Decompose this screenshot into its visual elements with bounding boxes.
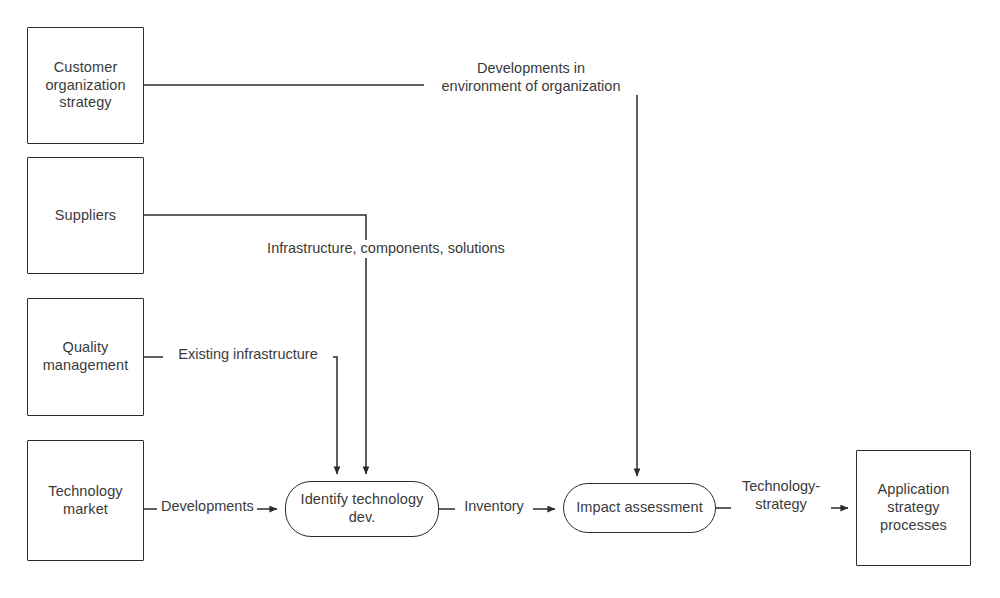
node-label: Technology market xyxy=(42,483,128,518)
edge-label-inventory: Inventory xyxy=(455,498,533,516)
node-customer-organization-strategy[interactable]: Customer organization strategy xyxy=(27,27,144,144)
edge-label-existing-infrastructure: Existing infrastructure xyxy=(163,346,333,364)
node-label: Impact assessment xyxy=(570,499,709,517)
edge-label-technology-strategy: Technology- strategy xyxy=(731,478,831,513)
node-label: Identify technology dev. xyxy=(295,491,430,526)
node-identify-technology-dev[interactable]: Identify technology dev. xyxy=(285,481,439,537)
node-label: Suppliers xyxy=(49,207,122,225)
edge-label-developments: Developments xyxy=(157,498,257,516)
node-label: Customer organization strategy xyxy=(39,59,131,112)
node-quality-management[interactable]: Quality management xyxy=(27,298,144,416)
node-suppliers[interactable]: Suppliers xyxy=(27,157,144,274)
node-technology-market[interactable]: Technology market xyxy=(27,440,144,561)
node-label: Quality management xyxy=(37,339,135,374)
edge-quality-management-to-identify-technology-dev xyxy=(144,357,337,474)
edge-label-infrastructure-components: Infrastructure, components, solutions xyxy=(243,240,529,258)
edge-customer-organization-strategy-to-impact-assessment xyxy=(144,85,637,476)
node-application-strategy-processes[interactable]: Application strategy processes xyxy=(856,450,971,566)
diagram-canvas: Customer organization strategy Suppliers… xyxy=(0,0,1000,598)
node-impact-assessment[interactable]: Impact assessment xyxy=(563,483,716,533)
edge-label-developments-in-environment: Developments in environment of organizat… xyxy=(424,60,638,95)
node-label: Application strategy processes xyxy=(871,481,955,534)
